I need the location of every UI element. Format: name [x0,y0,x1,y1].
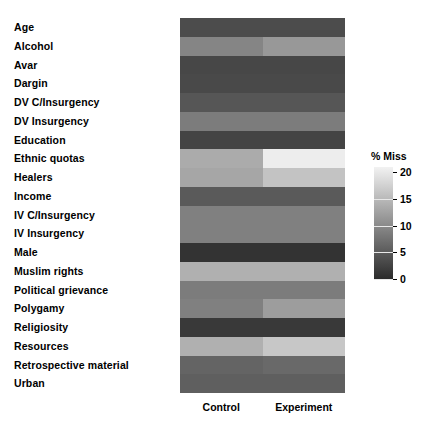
colorbar: 05101520 [374,167,393,279]
colorbar-tick-mark-outer [393,199,397,200]
heatmap-row [180,356,345,375]
heatmap-cell [263,337,346,356]
heatmap-cell [180,318,263,337]
heatmap-row [180,281,345,300]
heatmap-cell [263,206,346,225]
colorbar-tick-mark [374,199,393,200]
heatmap-row [180,18,345,37]
heatmap-row [180,131,345,150]
heatmap-cell [180,262,263,281]
heatmap-cell [263,318,346,337]
heatmap-row [180,187,345,206]
row-label: Polygamy [14,299,174,318]
heatmap-row [180,374,345,393]
colorbar-tick-mark-outer [393,252,397,253]
colorbar-tick-label: 5 [400,247,406,258]
row-label: Retrospective material [14,356,174,375]
row-label: DV C/Insurgency [14,93,174,112]
heatmap-row [180,337,345,356]
row-label-axis: AgeAlcoholAvarDarginDV C/InsurgencyDV In… [14,18,174,393]
colorbar-tick-mark [374,172,393,173]
heatmap-cell [263,149,346,168]
heatmap-cell [263,356,346,375]
row-label: Healers [14,168,174,187]
row-label: IV Insurgency [14,224,174,243]
heatmap-cell [263,281,346,300]
heatmap-cell [263,374,346,393]
heatmap-cell [180,374,263,393]
colorbar-tick-mark [374,252,393,253]
row-label: Muslim rights [14,262,174,281]
heatmap-cell [180,93,263,112]
heatmap-cell [180,149,263,168]
heatmap-cell [263,299,346,318]
row-label: DV Insurgency [14,112,174,131]
row-label: Dargin [14,74,174,93]
colorbar-tick-mark [374,226,393,227]
heatmap-cell [263,224,346,243]
colorbar-tick-mark-outer [393,226,397,227]
column-label: Experiment [263,399,346,415]
colorbar-legend: % Miss 05101520 [371,150,433,295]
heatmap-row [180,93,345,112]
heatmap-row [180,149,345,168]
heatmap-cell [263,131,346,150]
heatmap-cell [180,337,263,356]
heatmap-cell [180,56,263,75]
heatmap-cell [263,243,346,262]
heatmap-row [180,262,345,281]
heatmap-row [180,243,345,262]
heatmap-row [180,74,345,93]
heatmap-cell [263,262,346,281]
row-label: Education [14,131,174,150]
colorbar-tick-label: 10 [400,221,412,232]
heatmap-row [180,318,345,337]
row-label: Avar [14,56,174,75]
heatmap-cell [263,168,346,187]
legend-title: % Miss [371,150,407,162]
heatmap-row [180,206,345,225]
colorbar-tick-mark [374,279,393,280]
column-label: Control [180,399,263,415]
row-label: Alcohol [14,37,174,56]
heatmap-row [180,224,345,243]
row-label: Resources [14,337,174,356]
heatmap-cell [180,299,263,318]
row-label: IV C/Insurgency [14,206,174,225]
heatmap-cell [180,356,263,375]
heatmap-cell [263,18,346,37]
heatmap-cell [180,187,263,206]
heatmap-row [180,299,345,318]
heatmap-cell [263,187,346,206]
colorbar-tick-label: 20 [400,167,412,178]
colorbar-tick-label: 15 [400,194,412,205]
heatmap-cell [180,168,263,187]
colorbar-tick-label: 0 [400,274,406,285]
heatmap-cell [180,18,263,37]
heatmap-row [180,168,345,187]
heatmap-cell [180,206,263,225]
row-label: Urban [14,374,174,393]
heatmap-grid [180,18,345,393]
row-label: Religiosity [14,318,174,337]
row-label: Ethnic quotas [14,149,174,168]
colorbar-tick-mark-outer [393,172,397,173]
row-label: Male [14,243,174,262]
heatmap-cell [263,74,346,93]
heatmap-cell [180,131,263,150]
heatmap-cell [180,224,263,243]
heatmap-row [180,37,345,56]
row-label: Age [14,18,174,37]
row-label: Income [14,187,174,206]
column-label-axis: ControlExperiment [180,399,345,415]
heatmap-cell [263,93,346,112]
row-label: Political grievance [14,281,174,300]
colorbar-tick-mark-outer [393,279,397,280]
colorbar-gradient [374,167,393,279]
heatmap-cell [180,281,263,300]
heatmap-cell [263,37,346,56]
heatmap-cell [263,112,346,131]
missingness-heatmap-figure: AgeAlcoholAvarDarginDV C/InsurgencyDV In… [0,0,433,445]
heatmap-cell [180,37,263,56]
heatmap-cell [180,74,263,93]
